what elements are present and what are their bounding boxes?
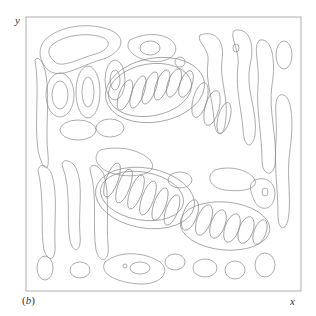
contour-figure: y x (b) (0, 0, 316, 316)
x-axis-label: x (290, 295, 295, 307)
contour-lines (35, 26, 292, 284)
contour-plot (0, 0, 316, 316)
panel-label: (b) (22, 294, 35, 306)
y-axis-label: y (15, 14, 20, 26)
panel-letter: b (26, 294, 32, 306)
plot-frame (26, 17, 301, 291)
